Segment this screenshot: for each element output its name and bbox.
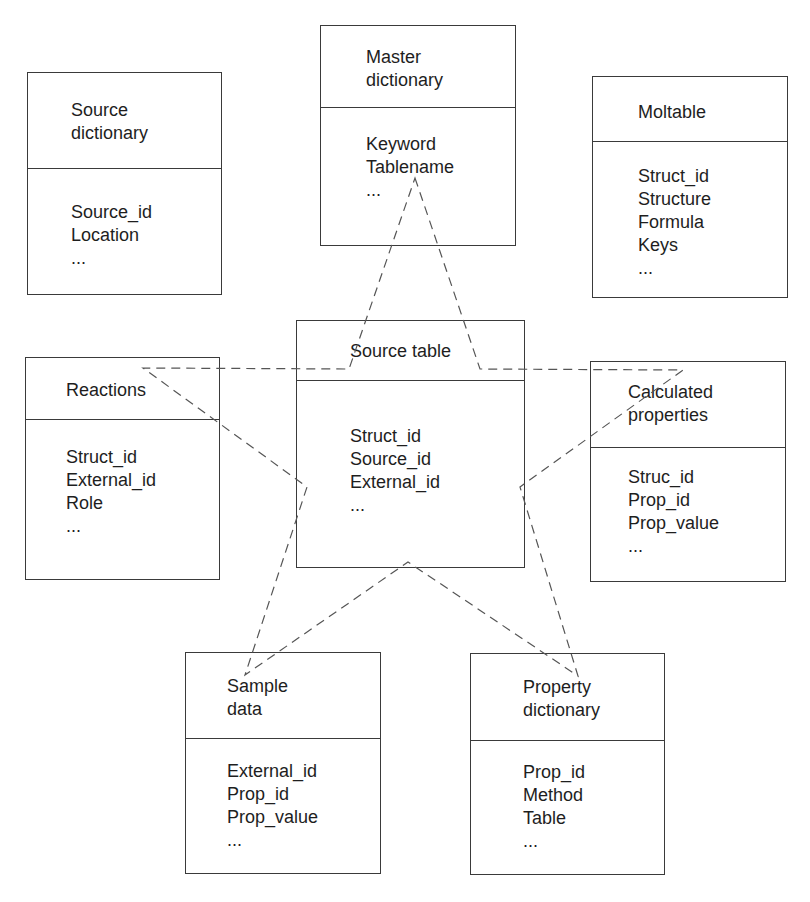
table-fields: Struct_id External_id Role ...: [66, 446, 156, 538]
field: ...: [523, 830, 585, 853]
table-master-dictionary: Master dictionary Keyword Tablename ...: [320, 25, 516, 246]
table-fields: Struc_id Prop_id Prop_value ...: [628, 466, 719, 558]
field: ...: [366, 179, 454, 202]
table-reactions: Reactions Struct_id External_id Role ...: [25, 357, 220, 580]
table-fields: External_id Prop_id Prop_value ...: [227, 760, 318, 852]
table-fields: Keyword Tablename ...: [366, 133, 454, 202]
field: ...: [227, 829, 318, 852]
table-header: Source dictionary: [28, 73, 221, 169]
table-fields: Prop_id Method Table ...: [523, 761, 585, 853]
table-title: Master dictionary: [366, 46, 443, 92]
table-header: Reactions: [26, 358, 219, 420]
field: ...: [66, 515, 156, 538]
table-property-dictionary: Property dictionary Prop_id Method Table…: [470, 653, 665, 875]
field: External_id: [350, 471, 440, 494]
table-title: Calculated properties: [628, 381, 713, 427]
field: External_id: [66, 469, 156, 492]
field: Prop_id: [523, 761, 585, 784]
table-moltable: Moltable Struct_id Structure Formula Key…: [592, 76, 788, 298]
table-source-table: Source table Struct_id Source_id Externa…: [296, 320, 525, 568]
field: Struct_id: [66, 446, 156, 469]
field: Formula: [638, 211, 711, 234]
field: Struct_id: [638, 165, 711, 188]
table-header: Moltable: [593, 77, 787, 142]
field: Prop_value: [628, 512, 719, 535]
table-header: Property dictionary: [471, 654, 664, 741]
field: Source_id: [350, 448, 440, 471]
field: Structure: [638, 188, 711, 211]
field: Struct_id: [350, 425, 440, 448]
table-title: Sample data: [227, 675, 288, 721]
field: ...: [350, 494, 440, 517]
field: ...: [638, 257, 711, 280]
table-title: Reactions: [66, 379, 146, 402]
table-header: Source table: [297, 321, 524, 381]
table-header: Master dictionary: [321, 26, 515, 108]
field: Struc_id: [628, 466, 719, 489]
table-title: Source dictionary: [71, 99, 148, 145]
field: Table: [523, 807, 585, 830]
table-sample-data: Sample data External_id Prop_id Prop_val…: [185, 652, 381, 874]
table-title: Moltable: [638, 101, 706, 124]
field: Source_id: [71, 201, 152, 224]
table-header: Calculated properties: [591, 362, 785, 448]
table-calculated-properties: Calculated properties Struc_id Prop_id P…: [590, 361, 786, 582]
field: Role: [66, 492, 156, 515]
field: Keys: [638, 234, 711, 257]
field: Prop_value: [227, 806, 318, 829]
field: External_id: [227, 760, 318, 783]
field: ...: [71, 247, 152, 270]
table-title: Source table: [350, 340, 451, 363]
field: Keyword: [366, 133, 454, 156]
field: Prop_id: [628, 489, 719, 512]
table-fields: Struct_id Structure Formula Keys ...: [638, 165, 711, 280]
table-fields: Struct_id Source_id External_id ...: [350, 425, 440, 517]
table-title: Property dictionary: [523, 676, 600, 722]
field: Method: [523, 784, 585, 807]
field: Location: [71, 224, 152, 247]
table-source-dictionary: Source dictionary Source_id Location ...: [27, 72, 222, 295]
table-header: Sample data: [186, 653, 380, 739]
field: ...: [628, 535, 719, 558]
field: Tablename: [366, 156, 454, 179]
field: Prop_id: [227, 783, 318, 806]
table-fields: Source_id Location ...: [71, 201, 152, 270]
